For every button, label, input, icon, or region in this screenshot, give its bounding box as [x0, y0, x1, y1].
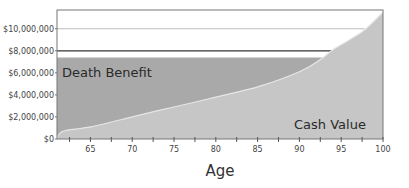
death-benefit-label: Death Benefit — [62, 65, 152, 80]
cash-value-label: Cash Value — [294, 117, 366, 132]
y-tick-label: $0 — [44, 135, 54, 144]
y-tick-label: $2,000,000 — [8, 113, 54, 122]
y-tick-label: $4,000,000 — [8, 91, 54, 100]
x-tick-label: 70 — [127, 145, 137, 154]
y-tick-label: $8,000,000 — [8, 47, 54, 56]
y-tick-label: $6,000,000 — [8, 69, 54, 78]
x-tick-label: 80 — [211, 145, 221, 154]
x-tick-label: 100 — [375, 145, 390, 154]
cash-value-death-benefit-chart: $0$2,000,000$4,000,000$6,000,000$8,000,0… — [0, 0, 409, 188]
y-tick-label: $10,000,000 — [3, 25, 54, 34]
x-tick-label: 65 — [85, 145, 95, 154]
x-axis: 65707580859095100 — [70, 137, 391, 154]
x-tick-label: 75 — [169, 145, 179, 154]
y-axis-tick-labels: $0$2,000,000$4,000,000$6,000,000$8,000,0… — [3, 25, 57, 144]
plot-area: Death Benefit Cash Value — [57, 10, 383, 139]
x-tick-label: 85 — [253, 145, 263, 154]
x-axis-title: Age — [205, 162, 234, 180]
x-tick-label: 90 — [294, 145, 304, 154]
x-tick-label: 95 — [336, 145, 346, 154]
